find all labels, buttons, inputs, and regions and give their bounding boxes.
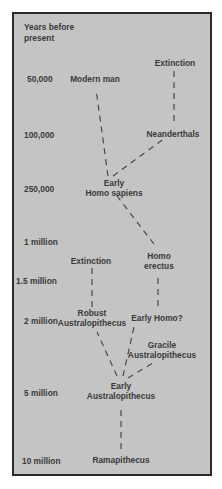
timeline-label-1-5-million: 1.5 million bbox=[16, 276, 57, 286]
node-robust-australopithecus: Robust Australopithecus bbox=[58, 308, 126, 328]
node-early-homo-sapiens: Early Homo sapiens bbox=[85, 178, 142, 198]
edge-early-australo-gracile bbox=[128, 363, 153, 378]
timeline-label-50000: 50,000 bbox=[27, 74, 53, 84]
timeline-label-5-million: 5 million bbox=[24, 388, 58, 398]
timeline-label-1-million: 1 million bbox=[24, 237, 58, 247]
edge-early-homo-sapiens-neanderthals bbox=[113, 138, 165, 176]
node-modern-man: Modern man bbox=[70, 74, 120, 84]
timeline-label-100000: 100,000 bbox=[24, 130, 54, 140]
timeline-label-250000: 250,000 bbox=[24, 184, 54, 194]
timeline-label-2-million: 2 million bbox=[24, 316, 58, 326]
node-early-australopithecus: Early Australopithecus bbox=[87, 381, 155, 401]
edge-homo-erectus-early-homo-sapiens bbox=[117, 196, 154, 244]
node-homo-erectus: Homo erectus bbox=[144, 251, 174, 271]
node-extinction-mid: Extinction bbox=[71, 256, 111, 266]
node-early-homo: Early Homo? bbox=[131, 313, 183, 323]
node-gracile-australopithecus: Gracile Australopithecus bbox=[128, 340, 196, 360]
edge-early-australo-robust bbox=[97, 332, 117, 376]
node-extinction-top: Extinction bbox=[155, 58, 195, 68]
axis-title: Years before present bbox=[24, 21, 74, 43]
node-ramapithecus: Ramapithecus bbox=[92, 455, 149, 465]
timeline-label-10-million: 10 million bbox=[22, 456, 61, 466]
node-neanderthals: Neanderthals bbox=[147, 129, 200, 139]
edge-early-homo-sapiens-modern-man bbox=[96, 89, 108, 176]
